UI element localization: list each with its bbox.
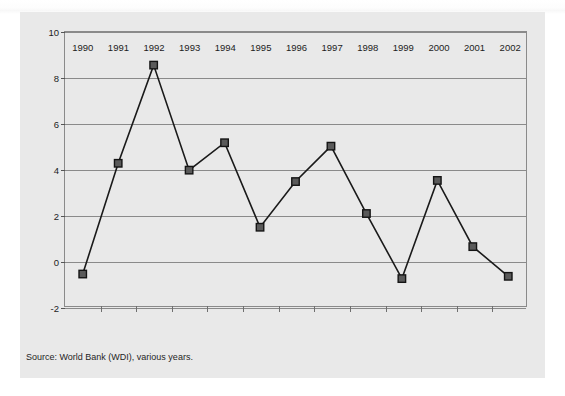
x-axis-tick-label: 1991 (108, 42, 129, 53)
data-point-marker (398, 275, 405, 282)
y-axis-tick-label: 10 (48, 27, 59, 38)
series-markers-group (79, 61, 512, 282)
data-point-marker (505, 273, 512, 280)
x-tick-mark (243, 306, 244, 312)
x-tick-mark (457, 306, 458, 312)
x-axis-tick-label: 1993 (179, 42, 200, 53)
data-point-marker (292, 178, 299, 185)
x-axis-tick-label: 2001 (464, 42, 485, 53)
plot-area: 1086420-2 199019911992199319941995199619… (64, 31, 527, 307)
y-axis-tick-label: -2 (51, 303, 59, 314)
y-axis-tick-label: 4 (54, 165, 59, 176)
x-axis-tick-label: 1994 (215, 42, 236, 53)
y-axis-tick-label: 2 (54, 211, 59, 222)
x-tick-mark (279, 306, 280, 312)
x-tick-mark (101, 306, 102, 312)
figure-panel: 1086420-2 199019911992199319941995199619… (20, 12, 545, 378)
data-point-marker (79, 270, 86, 277)
x-tick-mark (136, 306, 137, 312)
data-point-marker (469, 243, 476, 250)
x-axis-tick-label: 1999 (393, 42, 414, 53)
line-series-chart (65, 32, 526, 306)
y-axis-tick-label: 0 (54, 257, 59, 268)
x-tick-mark (172, 306, 173, 312)
series-line (83, 65, 509, 278)
x-tick-mark (350, 306, 351, 312)
data-point-marker (256, 224, 263, 231)
x-axis-tick-label: 1997 (322, 42, 343, 53)
x-axis-tick-label: 1998 (357, 42, 378, 53)
x-axis-ticks-group (65, 306, 526, 314)
data-point-marker (363, 210, 370, 217)
x-axis-tick-label: 1995 (250, 42, 271, 53)
data-point-marker (221, 139, 228, 146)
data-point-marker (327, 142, 334, 149)
x-axis-tick-label: 2000 (428, 42, 449, 53)
x-tick-mark (492, 306, 493, 312)
x-axis-tick-label: 1996 (286, 42, 307, 53)
data-point-marker (150, 61, 157, 68)
x-tick-mark (314, 306, 315, 312)
data-point-marker (434, 177, 441, 184)
x-axis-tick-label: 2002 (500, 42, 521, 53)
y-axis-tick-label: 6 (54, 119, 59, 130)
data-point-marker (185, 166, 192, 173)
x-axis-tick-label: 1992 (143, 42, 164, 53)
x-tick-mark (207, 306, 208, 312)
x-tick-mark (386, 306, 387, 312)
x-axis-tick-label: 1990 (72, 42, 93, 53)
y-axis-tick-label: 8 (54, 73, 59, 84)
x-tick-mark (421, 306, 422, 312)
data-point-marker (114, 160, 121, 167)
source-note: Source: World Bank (WDI), various years. (26, 352, 193, 362)
